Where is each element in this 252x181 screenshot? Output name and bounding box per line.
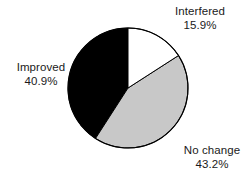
pie-label-interfered-name: Interfered [148,4,252,18]
pie-label-no-change-name: No change [172,143,252,157]
pie-label-interfered: Interfered 15.9% [148,4,252,32]
pie-label-no-change: No change 43.2% [172,143,252,171]
pie-label-interfered-percent: 15.9% [148,18,252,32]
pie-chart-figure: Interfered 15.9% No change 43.2% Improve… [0,0,252,181]
pie-label-improved: Improved 40.9% [0,60,82,88]
pie-label-improved-percent: 40.9% [0,74,82,88]
pie-label-no-change-percent: 43.2% [172,157,252,171]
pie-label-improved-name: Improved [0,60,82,74]
